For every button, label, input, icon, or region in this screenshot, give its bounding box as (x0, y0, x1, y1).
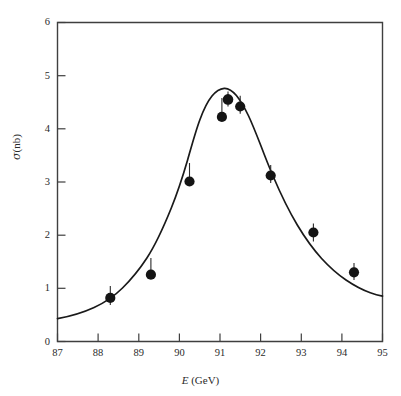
y-axis-title: σ(nb) (10, 100, 23, 160)
y-tick-label-4: 4 (36, 124, 50, 135)
y-axis-title-symbol: σ (10, 152, 23, 160)
x-axis-title: E (GeV) (0, 374, 401, 386)
x-tick-label-92: 92 (255, 348, 266, 359)
y-tick-label-6: 6 (36, 17, 50, 28)
data-point (217, 112, 227, 122)
x-tick-label-87: 87 (52, 348, 63, 359)
y-tick-label-5: 5 (36, 70, 50, 81)
y-tick-marks (58, 23, 66, 342)
figure-panel: 6 5 4 3 2 1 0 87 88 89 90 91 92 93 94 95… (0, 0, 401, 396)
x-tick-label-93: 93 (296, 348, 307, 359)
y-tick-label-3: 3 (36, 177, 50, 188)
data-point (349, 267, 359, 277)
data-point (266, 170, 276, 180)
data-point (235, 101, 245, 111)
x-tick-label-94: 94 (337, 348, 348, 359)
x-tick-marks (58, 334, 383, 342)
data-points (105, 94, 359, 303)
x-tick-label-89: 89 (134, 348, 145, 359)
data-point (105, 293, 115, 303)
y-tick-label-2: 2 (36, 230, 50, 241)
axis-frame (58, 23, 383, 342)
plot-canvas (0, 0, 401, 396)
data-point (146, 270, 156, 280)
y-tick-label-1: 1 (36, 283, 50, 294)
data-point (308, 227, 318, 237)
data-point (223, 94, 234, 105)
x-tick-label-90: 90 (174, 348, 185, 359)
x-axis-title-symbol: E (182, 374, 189, 386)
data-point (184, 176, 194, 186)
x-axis-title-unit: (GeV) (191, 374, 219, 386)
x-tick-label-95: 95 (377, 348, 388, 359)
x-tick-label-91: 91 (215, 348, 226, 359)
y-tick-label-0: 0 (36, 336, 50, 347)
resonance-fit-curve (58, 88, 383, 318)
x-tick-label-88: 88 (93, 348, 104, 359)
y-axis-title-unit: (nb) (10, 134, 22, 152)
